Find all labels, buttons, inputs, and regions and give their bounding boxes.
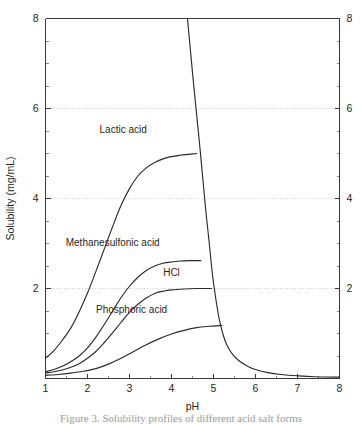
gridlines-group [46,109,340,289]
x-tick-label-8: 8 [337,382,343,394]
series-path-descending-limb [187,19,339,378]
y-tick-label-right-6: 6 [347,102,353,114]
y-tick-labels-left-group: 2468 [33,12,39,294]
y-tick-labels-right-group: 2468 [347,12,353,294]
series-label-methanesulfonic-acid: Methanesulfonic acid [66,237,160,248]
figure-caption-clipped: Figure 3. Solubility profiles of differe… [0,412,362,424]
y-tick-label-left-6: 6 [33,102,39,114]
x-tick-label-2: 2 [85,382,91,394]
x-tick-label-7: 7 [295,382,301,394]
figure-container: 12345678 2468 2468 Lactic acidMethanesul… [0,0,362,424]
x-tick-labels-group: 12345678 [43,382,343,394]
y-tick-label-right-4: 4 [347,192,353,204]
x-tick-label-4: 4 [169,382,175,394]
series-labels-group: Lactic acidMethanesulfonic acidHClPhosph… [66,124,180,315]
x-tick-label-5: 5 [211,382,217,394]
solubility-ph-chart: 12345678 2468 2468 Lactic acidMethanesul… [0,0,362,424]
x-tick-label-6: 6 [253,382,259,394]
series-path-phosphoric-acid [46,325,222,375]
x-tick-label-3: 3 [127,382,133,394]
y-tick-label-right-2: 2 [347,282,353,294]
y-axis-title: Solubility (mg/mL) [4,156,16,240]
x-tick-label-1: 1 [43,382,49,394]
series-path-hcl [46,288,212,373]
y-tick-label-right-8: 8 [347,12,353,24]
y-tick-label-left-2: 2 [33,282,39,294]
series-label-lactic-acid: Lactic acid [100,124,147,135]
series-label-phosphoric-acid: Phosphoric acid [96,304,167,315]
series-paths-group [46,19,340,378]
y-tick-label-left-8: 8 [33,12,39,24]
series-label-hcl: HCl [163,267,180,278]
x-axis-title: pH [186,400,199,412]
series-path-lactic-acid [46,154,197,359]
caption-text: Figure 3. Solubility profiles of differe… [0,412,362,424]
y-tick-label-left-4: 4 [33,192,39,204]
